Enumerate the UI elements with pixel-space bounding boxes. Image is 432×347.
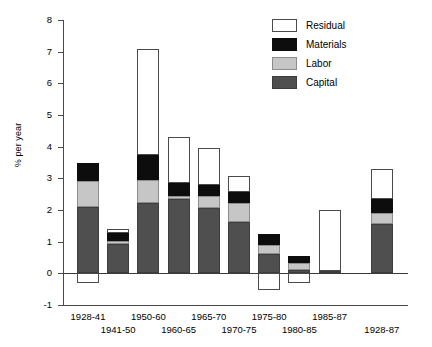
bar-1941-50	[107, 20, 129, 305]
x-axis-tick-label-1975-80: 1975-80	[252, 311, 287, 323]
y-axis-line	[63, 20, 64, 305]
x-axis-tick-label-1928-41: 1928-41	[71, 311, 106, 323]
x-axis-tick-label-1965-70: 1965-70	[191, 311, 226, 323]
y-axis-title: % per year	[13, 85, 23, 205]
bar-segment-residual	[258, 273, 280, 290]
bar-segment-capital	[137, 203, 159, 273]
y-axis-tick: 1	[58, 242, 64, 243]
y-axis-tick-label: 2	[47, 204, 52, 215]
y-axis-tick: 7	[58, 52, 64, 53]
chart-legend: Residual Materials Labor Capital	[272, 16, 347, 92]
bar-segment-labor	[137, 180, 159, 203]
legend-item-labor: Labor	[272, 54, 347, 73]
y-axis-tick: 4	[58, 147, 64, 148]
bar-segment-capital	[168, 199, 190, 273]
legend-label-materials: Materials	[306, 39, 347, 51]
x-axis-tick-label-1950-60: 1950-60	[131, 311, 166, 323]
bar-segment-materials	[198, 185, 220, 196]
y-axis-tick: 3	[58, 178, 64, 179]
x-axis-tick-label-1985-87: 1985-87	[312, 311, 347, 323]
y-axis-tick: 5	[58, 115, 64, 116]
bar-1970-75	[228, 20, 250, 305]
y-axis-tick-label: 4	[47, 141, 52, 152]
bar-segment-labor	[258, 245, 280, 254]
bar-segment-labor	[77, 181, 99, 207]
y-axis-tick: -1	[58, 305, 64, 306]
bar-segment-labor	[371, 213, 393, 224]
legend-swatch-capital-icon	[272, 76, 297, 89]
y-axis-tick-label: 6	[47, 77, 52, 88]
bar-segment-materials	[168, 183, 190, 196]
bar-segment-residual	[107, 229, 129, 233]
bar-1928-87	[371, 20, 393, 305]
bar-segment-labor	[168, 196, 190, 199]
legend-swatch-residual-icon	[272, 19, 297, 32]
y-axis-tick-label: -1	[44, 299, 52, 310]
bar-segment-capital	[319, 271, 341, 274]
bar-1965-70	[198, 20, 220, 305]
x-axis-tick-label-1970-75: 1970-75	[222, 324, 257, 336]
x-axis-line	[63, 305, 408, 306]
bar-segment-residual	[77, 273, 99, 283]
bar-segment-materials	[258, 234, 280, 245]
bar-segment-residual	[288, 273, 310, 283]
bar-segment-capital	[107, 244, 129, 273]
x-axis-tick-label-1980-85: 1980-85	[282, 324, 317, 336]
bar-segment-labor	[198, 196, 220, 208]
bar-1950-60	[137, 20, 159, 305]
y-axis-tick-label: 8	[47, 14, 52, 25]
bar-segment-labor	[107, 241, 129, 244]
legend-swatch-materials-icon	[272, 38, 297, 51]
legend-swatch-labor-icon	[272, 57, 297, 70]
plot-area: 876543210-1	[63, 20, 408, 305]
y-axis-tick-label: 5	[47, 109, 52, 120]
bar-segment-capital	[371, 224, 393, 273]
x-axis-tick-label-1960-65: 1960-65	[161, 324, 196, 336]
legend-label-capital: Capital	[306, 77, 337, 89]
x-axis-tick-label-1941-50: 1941-50	[101, 324, 136, 336]
y-axis-tick-label: 1	[47, 236, 52, 247]
y-axis-tick-label: 7	[47, 46, 52, 57]
y-axis-tick: 0	[58, 273, 64, 274]
bar-1928-41	[77, 20, 99, 305]
bar-segment-residual	[198, 148, 220, 185]
y-axis-tick: 6	[58, 83, 64, 84]
bar-segment-capital	[77, 207, 99, 273]
bar-1960-65	[168, 20, 190, 305]
bar-segment-labor	[228, 203, 250, 222]
bar-segment-materials	[77, 163, 99, 181]
bar-segment-capital	[258, 254, 280, 273]
x-axis-tick-label-1928-87: 1928-87	[364, 324, 399, 336]
bar-segment-materials	[228, 192, 250, 203]
bar-segment-residual	[137, 49, 159, 155]
y-axis-tick: 8	[58, 20, 64, 21]
legend-item-materials: Materials	[272, 35, 347, 54]
bar-segment-residual	[228, 176, 250, 192]
bar-segment-residual	[168, 137, 190, 183]
y-axis-tick-label: 0	[47, 267, 52, 278]
y-axis-tick: 2	[58, 210, 64, 211]
legend-item-capital: Capital	[272, 73, 347, 92]
legend-label-labor: Labor	[306, 58, 332, 70]
bar-segment-materials	[137, 155, 159, 180]
bar-segment-materials	[288, 256, 310, 263]
bar-segment-capital	[228, 222, 250, 273]
bar-segment-materials	[371, 199, 393, 213]
bar-segment-residual	[371, 169, 393, 199]
bar-segment-labor	[288, 263, 310, 270]
legend-item-residual: Residual	[272, 16, 347, 35]
bar-segment-capital	[198, 208, 220, 273]
chart-figure: % per year 876543210-1 1928-411941-50195…	[0, 0, 432, 347]
bar-segment-materials	[107, 233, 129, 241]
y-axis-tick-label: 3	[47, 172, 52, 183]
legend-label-residual: Residual	[306, 20, 345, 32]
bar-segment-residual	[319, 210, 341, 270]
